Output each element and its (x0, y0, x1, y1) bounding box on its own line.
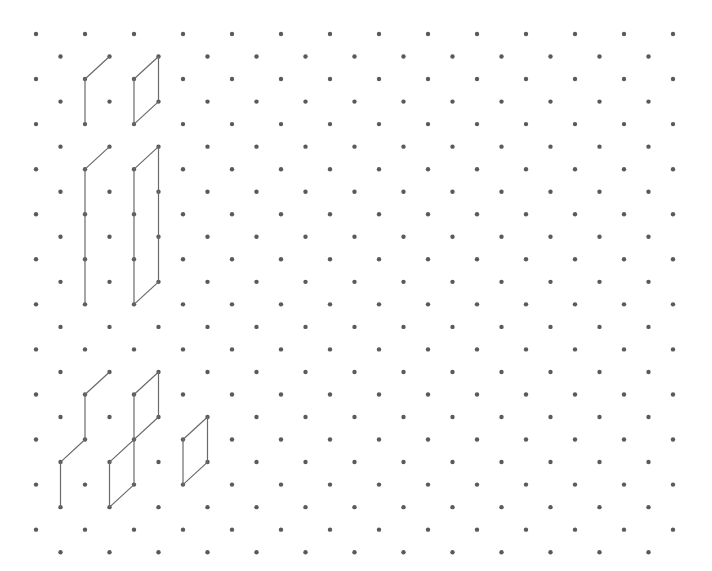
grid-dot (352, 550, 356, 554)
grid-dot (671, 32, 675, 36)
grid-dot (279, 437, 283, 441)
grid-dot (107, 235, 111, 239)
grid-dot (475, 437, 479, 441)
grid-dot (597, 325, 601, 329)
grid-dot (205, 144, 209, 148)
grid-dot (646, 460, 650, 464)
grid-dot (573, 302, 577, 306)
grid-dot (548, 370, 552, 374)
grid-dot (548, 550, 552, 554)
grid-dot (524, 257, 528, 261)
grid-dot (475, 212, 479, 216)
grid-dot (254, 415, 258, 419)
grid-dot (107, 280, 111, 284)
grid-dot (573, 167, 577, 171)
grid-dot (377, 122, 381, 126)
grid-dot (107, 325, 111, 329)
grid-dot (573, 77, 577, 81)
grid-dot (230, 527, 234, 531)
grid-dot (622, 77, 626, 81)
grid-dot (303, 235, 307, 239)
grid-dot (181, 347, 185, 351)
shape-tall-step (85, 147, 110, 305)
grid-dot (303, 99, 307, 103)
grid-dot (34, 347, 38, 351)
grid-dot (303, 370, 307, 374)
grid-dot (597, 415, 601, 419)
line-segment (183, 417, 208, 440)
line-segment (134, 282, 159, 305)
grid-dot (499, 460, 503, 464)
grid-dot (450, 235, 454, 239)
grid-dot (83, 32, 87, 36)
grid-dot (279, 77, 283, 81)
grid-dot (230, 392, 234, 396)
grid-dot (230, 212, 234, 216)
grid-dot (573, 482, 577, 486)
grid-dot (34, 482, 38, 486)
grid-dot (573, 122, 577, 126)
grid-dot (352, 190, 356, 194)
grid-dot (671, 347, 675, 351)
line-segment (85, 147, 110, 170)
grid-dot (597, 460, 601, 464)
grid-dot (671, 167, 675, 171)
grid-dot (475, 392, 479, 396)
grid-dot (573, 212, 577, 216)
grid-dot (573, 347, 577, 351)
grid-dot (450, 325, 454, 329)
grid-dot (328, 302, 332, 306)
grid-dot (573, 437, 577, 441)
grid-dot (352, 280, 356, 284)
grid-dot (524, 32, 528, 36)
grid-dot (230, 302, 234, 306)
drawn-shapes (61, 57, 208, 508)
grid-dot (401, 235, 405, 239)
grid-dot (597, 190, 601, 194)
grid-dot (622, 527, 626, 531)
grid-dot (205, 235, 209, 239)
grid-dot (524, 167, 528, 171)
grid-dot (401, 505, 405, 509)
grid-dot (254, 54, 258, 58)
line-segment (85, 57, 110, 80)
grid-dot (58, 54, 62, 58)
grid-dot (205, 54, 209, 58)
grid-dot (205, 99, 209, 103)
grid-dot (426, 302, 430, 306)
grid-dot (352, 99, 356, 103)
grid-dot (401, 370, 405, 374)
grid-dot (328, 167, 332, 171)
grid-dot (254, 144, 258, 148)
grid-dot (671, 482, 675, 486)
grid-dot (279, 167, 283, 171)
grid-dot (377, 257, 381, 261)
grid-dot (524, 347, 528, 351)
grid-dot (622, 482, 626, 486)
grid-dot (156, 505, 160, 509)
grid-dot (254, 325, 258, 329)
grid-dot (548, 190, 552, 194)
grid-dot (303, 415, 307, 419)
grid-dot (254, 505, 258, 509)
grid-dot (524, 77, 528, 81)
grid-dot (450, 505, 454, 509)
grid-dot (230, 122, 234, 126)
grid-dot (450, 370, 454, 374)
grid-dot (597, 235, 601, 239)
grid-dot (303, 190, 307, 194)
grid-dot (573, 32, 577, 36)
grid-dot (352, 325, 356, 329)
grid-dot (401, 190, 405, 194)
grid-dot (450, 99, 454, 103)
grid-dot (499, 325, 503, 329)
grid-dot (303, 550, 307, 554)
grid-dot (548, 144, 552, 148)
grid-dot (205, 505, 209, 509)
grid-dot (58, 550, 62, 554)
grid-dot (377, 347, 381, 351)
grid-dot (450, 144, 454, 148)
grid-dot (499, 144, 503, 148)
grid-dot (548, 99, 552, 103)
grid-dot (475, 302, 479, 306)
